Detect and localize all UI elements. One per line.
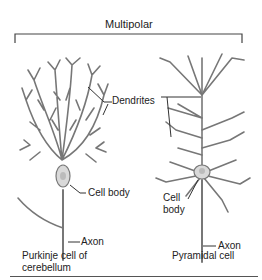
caption-pyramidal: Pyramidal cell bbox=[172, 250, 234, 262]
label-purkinje-axon: Axon bbox=[81, 236, 104, 248]
caption-purkinje-line2: cerebellum bbox=[22, 262, 71, 274]
purkinje-cell bbox=[18, 58, 108, 260]
label-pyramidal-body: body bbox=[163, 204, 185, 216]
bottom-rule bbox=[10, 276, 258, 277]
label-pyramidal-cell: Cell bbox=[163, 192, 180, 204]
pyramidal-cell bbox=[156, 54, 250, 262]
caption-purkinje-line1: Purkinje cell of bbox=[22, 250, 87, 262]
neuron-diagram bbox=[0, 0, 262, 280]
title-multipolar: Multipolar bbox=[105, 18, 153, 30]
leader-lines bbox=[68, 87, 216, 246]
label-purkinje-cell-body: Cell body bbox=[88, 187, 130, 199]
label-dendrites: Dendrites bbox=[112, 95, 155, 107]
multipolar-bracket bbox=[15, 34, 242, 43]
